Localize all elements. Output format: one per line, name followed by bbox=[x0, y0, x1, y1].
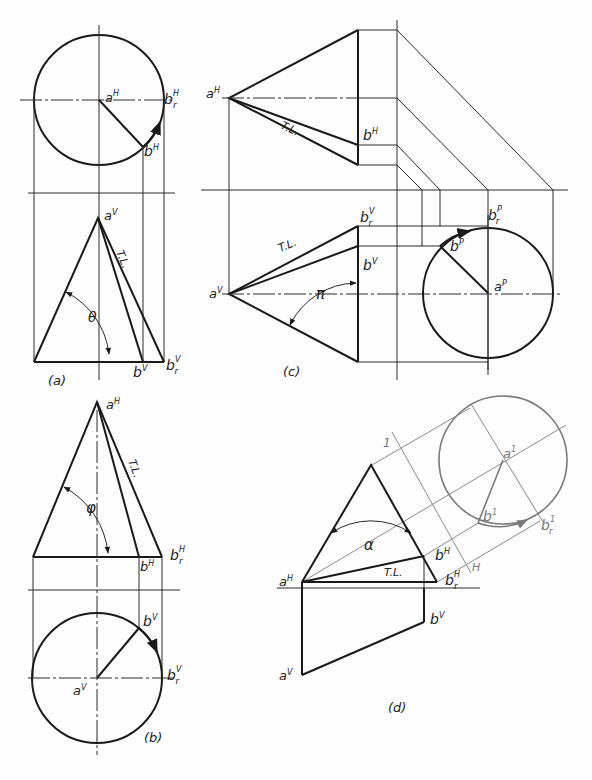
panel-b-caption: (b) bbox=[144, 730, 162, 745]
label-phi: φ bbox=[86, 499, 96, 517]
label-bH: bH bbox=[144, 143, 159, 159]
label-pi: π bbox=[316, 285, 326, 303]
panel-d: 1 a1 b1 b1r α bH T.L. aH bHr H bV aV (d) bbox=[277, 396, 567, 715]
label-brV: bVr bbox=[360, 207, 375, 228]
label-a1: a1 bbox=[503, 445, 516, 461]
line-ab-front bbox=[229, 246, 358, 294]
label-aH: aH bbox=[279, 574, 293, 589]
label-theta: θ bbox=[88, 309, 97, 325]
line-ab-top bbox=[229, 98, 358, 145]
miter-line bbox=[397, 30, 553, 190]
line-ab-front bbox=[97, 628, 139, 678]
line-ab-profile bbox=[440, 246, 488, 293]
label-brH: bHr bbox=[170, 545, 185, 566]
angle-alpha-arc bbox=[331, 521, 411, 533]
label-1: 1 bbox=[383, 436, 391, 450]
panel-a-caption: (a) bbox=[48, 373, 66, 388]
label-alpha: α bbox=[364, 536, 374, 554]
label-bV: bV bbox=[133, 364, 148, 380]
label-brH: bHr bbox=[164, 89, 179, 110]
label-b1: b1 bbox=[483, 508, 497, 524]
label-aH: aH bbox=[206, 86, 220, 101]
label-brV: bVr bbox=[166, 355, 181, 376]
aux-circle-centerline bbox=[471, 404, 543, 522]
descriptive-geometry-figure: aH bHr bH aV T.L. θ bV bVr (a) aH T.L. φ… bbox=[0, 0, 592, 780]
label-true-length-front: T.L. bbox=[276, 236, 298, 255]
miter-line bbox=[397, 98, 488, 190]
panel-a: aH bHr bH aV T.L. θ bV bVr (a) bbox=[20, 25, 181, 388]
label-bH: bH bbox=[363, 127, 378, 143]
label-br1: b1r bbox=[541, 515, 555, 536]
panel-d-caption: (d) bbox=[388, 700, 406, 715]
rotation-arrow-front bbox=[139, 628, 157, 652]
label-aH: aH bbox=[106, 397, 120, 412]
label-bV: bV bbox=[143, 613, 158, 629]
label-true-length: T.L. bbox=[384, 566, 403, 579]
label-true-length-top: T.L. bbox=[279, 119, 301, 139]
line-ab-front bbox=[302, 622, 424, 675]
label-bP: bP bbox=[450, 238, 464, 254]
panel-c-caption: (c) bbox=[283, 364, 300, 379]
label-bV: bV bbox=[363, 257, 378, 273]
miter-line bbox=[397, 165, 422, 190]
label-aV: aV bbox=[73, 683, 87, 698]
line-ab-top bbox=[99, 100, 143, 147]
aux-projector bbox=[424, 523, 478, 556]
label-bH: bH bbox=[140, 559, 154, 574]
cone-outline-top bbox=[302, 465, 437, 582]
angle-phi-arc bbox=[64, 487, 108, 553]
label-aV: aV bbox=[104, 208, 118, 223]
label-H: H bbox=[472, 561, 480, 574]
label-aH: aH bbox=[105, 89, 119, 105]
line-ab-top bbox=[302, 556, 424, 582]
label-aV: aV bbox=[279, 668, 293, 683]
label-bV: bV bbox=[430, 611, 445, 627]
line-ab-front bbox=[98, 218, 143, 362]
label-brP: bPr bbox=[488, 205, 502, 226]
panel-b: aH T.L. φ bH bHr bV aV bVr (b) bbox=[28, 397, 185, 755]
label-brV: bVr bbox=[167, 665, 182, 686]
label-aP: aP bbox=[494, 279, 507, 294]
miter-line bbox=[397, 145, 440, 190]
label-true-length: T.L. bbox=[113, 248, 132, 270]
aux-projector-axis bbox=[302, 425, 566, 582]
label-bH: bH bbox=[435, 547, 450, 563]
panel-c: aH T.L. bH bVr T.L. bV aV π bPr bP aP (c… bbox=[201, 20, 568, 380]
label-aV: aV bbox=[209, 286, 223, 301]
